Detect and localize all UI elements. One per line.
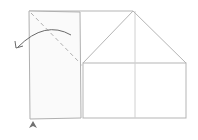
origami-diagram: [0, 0, 198, 140]
folded-flap: [29, 11, 81, 119]
view-marker-icon: [29, 121, 37, 128]
fold-arrow-head-icon: [15, 41, 23, 48]
